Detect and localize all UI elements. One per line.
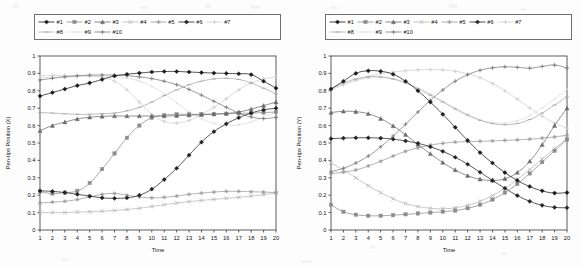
legend-marker-n8: [329, 28, 346, 36]
legend-marker-n4: [413, 18, 430, 26]
x-axis-tick-label: 10: [440, 235, 446, 241]
x-axis-tick-label: 5: [379, 235, 382, 241]
figure-page: #1#2#3#4#5#6#7#8#9#10 00.10.20.30.40.50.…: [0, 0, 582, 268]
scan-artifact: [370, 246, 375, 249]
y-axis-tick-label: 0.1: [27, 210, 35, 216]
x-axis-tick-label: 14: [489, 235, 496, 241]
legend-item-n2[interactable]: #2: [66, 18, 91, 26]
legend-item-label: #9: [84, 29, 90, 35]
legend-item-label: #5: [459, 19, 465, 25]
y-axis-tick-label: 0.5: [27, 140, 35, 146]
legend-row: #1#2#3#4#5#6#7: [38, 17, 277, 27]
y-axis-tick-label: 0.4: [27, 157, 36, 163]
legend-item-label: #3: [112, 19, 118, 25]
legend-item-n5[interactable]: #5: [441, 18, 466, 26]
x-axis-tick-label: 18: [539, 235, 545, 241]
scan-artifact: [250, 5, 261, 9]
x-axis-tick-label: 15: [211, 235, 217, 241]
legend-item-n10[interactable]: #10: [385, 28, 413, 36]
legend-item-n8[interactable]: #8: [329, 28, 354, 36]
legend-item-n5[interactable]: #5: [150, 18, 175, 26]
x-axis-tick-label: 5: [88, 235, 91, 241]
x-axis-tick-label: 15: [502, 235, 508, 241]
chart-legend: #1#2#3#4#5#6#7#8#9#10: [325, 14, 572, 40]
x-axis-tick-label: 2: [51, 235, 54, 241]
legend-item-label: #2: [375, 19, 381, 25]
legend-item-label: #6: [196, 19, 202, 25]
x-axis-tick-label: 6: [391, 235, 394, 241]
y-axis-tick-label: 0.7: [27, 105, 35, 111]
legend-item-label: #1: [57, 19, 63, 25]
x-axis-tick-label: 6: [100, 235, 103, 241]
scan-artifact: [205, 3, 211, 8]
figure-pair: #1#2#3#4#5#6#7#8#9#10 00.10.20.30.40.50.…: [0, 0, 582, 268]
scan-artifact: [60, 258, 69, 261]
legend-item-n9[interactable]: #9: [357, 28, 382, 36]
legend-item-n9[interactable]: #9: [66, 28, 91, 36]
legend-item-n6[interactable]: #6: [178, 18, 203, 26]
x-axis-tick-label: 13: [477, 235, 483, 241]
legend-marker-n3: [94, 18, 111, 26]
line-chart-pen-tips-position-x: 00.10.20.30.40.50.60.70.80.9112345678910…: [0, 48, 291, 268]
x-axis-tick-label: 1: [38, 235, 41, 241]
x-axis-tick-label: 16: [514, 235, 520, 241]
legend-item-n7[interactable]: #7: [206, 18, 231, 26]
y-axis-tick-label: 0.4: [318, 157, 327, 163]
x-axis-tick-label: 8: [416, 235, 419, 241]
y-axis-tick-label: 0.2: [318, 192, 326, 198]
x-axis-tick-label: 17: [236, 235, 242, 241]
y-axis-tick-label: 0: [32, 227, 35, 233]
legend-item-n6[interactable]: #6: [469, 18, 494, 26]
legend-item-n1[interactable]: #1: [329, 18, 354, 26]
x-axis-tick-label: 18: [248, 235, 254, 241]
legend-item-label: #4: [431, 19, 437, 25]
legend-marker-n2: [66, 18, 83, 26]
legend-marker-n4: [122, 18, 139, 26]
x-axis-tick-label: 11: [452, 235, 458, 241]
legend-item-n4[interactable]: #4: [413, 18, 438, 26]
x-axis-tick-label: 1: [329, 235, 332, 241]
legend-item-n1[interactable]: #1: [38, 18, 63, 26]
legend-item-label: #8: [57, 29, 63, 35]
y-axis-tick-label: 0.3: [318, 175, 326, 181]
y-axis-tick-label: 1: [32, 53, 35, 59]
y-axis-tick-label: 0.2: [27, 192, 35, 198]
x-axis-tick-label: 19: [260, 235, 266, 241]
x-axis-tick-label: 9: [138, 235, 141, 241]
y-axis-tick-label: 0.6: [318, 123, 326, 129]
x-axis-tick-label: 13: [186, 235, 192, 241]
legend-item-n3[interactable]: #3: [94, 18, 119, 26]
y-axis-tick-label: 0.1: [318, 210, 326, 216]
x-axis-tick-label: 4: [76, 235, 80, 241]
y-axis-tick-label: 0.6: [27, 123, 35, 129]
legend-item-n8[interactable]: #8: [38, 28, 63, 36]
scan-artifact: [520, 8, 527, 11]
legend-item-n2[interactable]: #2: [357, 18, 382, 26]
legend-marker-n6: [178, 18, 195, 26]
scan-artifact: [500, 252, 508, 255]
y-axis-tick-label: 0.5: [318, 140, 326, 146]
chart-panel-pen-tips-position-y: #1#2#3#4#5#6#7#8#9#10 00.10.20.30.40.50.…: [291, 0, 582, 268]
y-axis-tick-label: 0.8: [27, 88, 35, 94]
legend-item-n4[interactable]: #4: [122, 18, 147, 26]
legend-marker-n2: [357, 18, 374, 26]
legend-item-label: #4: [140, 19, 146, 25]
legend-marker-n7: [497, 18, 514, 26]
y-axis-title: Pen-tips Position (Y): [296, 117, 302, 170]
legend-row: #8#9#10: [329, 27, 568, 37]
x-axis-tick-label: 8: [125, 235, 128, 241]
x-axis-tick-label: 17: [527, 235, 533, 241]
legend-marker-n9: [357, 28, 374, 36]
legend-item-n3[interactable]: #3: [385, 18, 410, 26]
legend-marker-n6: [469, 18, 486, 26]
legend-row: #8#9#10: [38, 27, 277, 37]
y-axis-tick-label: 1: [323, 53, 326, 59]
legend-item-label: #2: [84, 19, 90, 25]
scan-artifact: [448, 4, 458, 8]
legend-marker-n9: [66, 28, 83, 36]
scan-artifact: [140, 6, 149, 9]
legend-item-label: #9: [375, 29, 381, 35]
legend-item-n10[interactable]: #10: [94, 28, 122, 36]
legend-item-n7[interactable]: #7: [497, 18, 522, 26]
y-axis-tick-label: 0.8: [318, 88, 326, 94]
